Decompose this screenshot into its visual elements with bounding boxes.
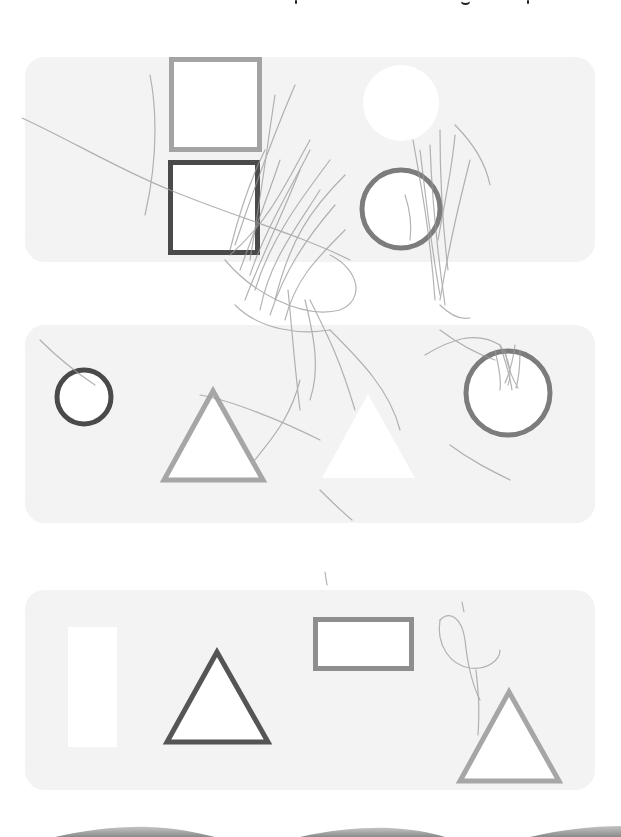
worksheet-panel-3 xyxy=(25,590,595,790)
footer-waves xyxy=(0,822,621,837)
wave-shape xyxy=(300,828,445,837)
page-title-fragment xyxy=(0,0,621,8)
title-descender xyxy=(460,0,471,5)
title-descender xyxy=(527,0,529,4)
wave-shape xyxy=(530,826,621,837)
wave-shape xyxy=(55,827,215,837)
title-descender xyxy=(295,0,297,4)
worksheet-panel-1 xyxy=(25,57,595,262)
worksheet-panel-2 xyxy=(25,325,595,523)
